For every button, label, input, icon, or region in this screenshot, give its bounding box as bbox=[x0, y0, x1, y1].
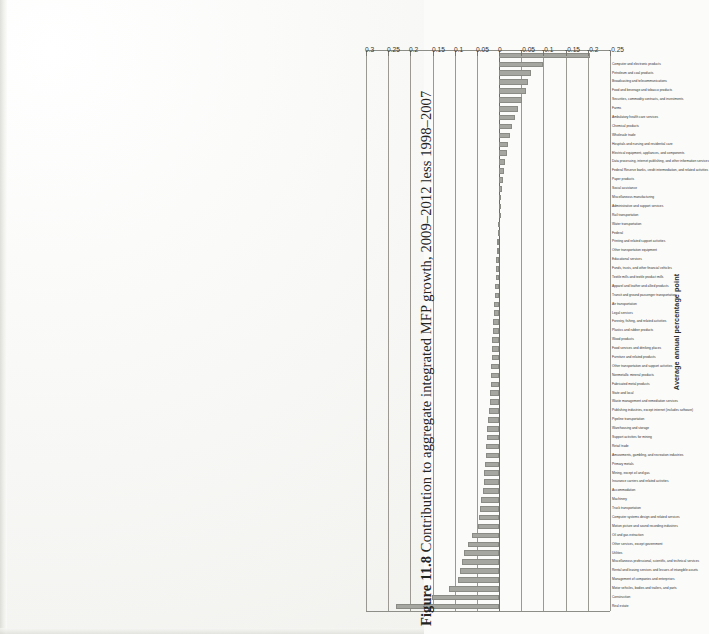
y-axis-tick-label: -0.25 bbox=[609, 6, 616, 46]
category-label: Legal services bbox=[612, 312, 633, 315]
y-axis-tick-label: 0.3 bbox=[365, 6, 372, 46]
bar bbox=[499, 70, 531, 76]
category-label: Nonmetallic mineral products bbox=[612, 374, 654, 377]
bar bbox=[494, 310, 499, 316]
figure-caption-text: Contribution to aggregate integrated MFP… bbox=[418, 91, 434, 552]
category-label: Miscellaneous professional, scientific, … bbox=[612, 560, 699, 563]
bar bbox=[396, 604, 499, 610]
category-label: Motion picture and sound recording indus… bbox=[612, 525, 678, 528]
bar bbox=[485, 462, 499, 468]
category-label: Other services, except government bbox=[612, 543, 662, 546]
category-label: Federal bbox=[612, 232, 623, 235]
category-label: Support activities for mining bbox=[612, 436, 652, 439]
bar bbox=[499, 142, 508, 148]
category-label: Other transportation and support activit… bbox=[612, 365, 672, 368]
y-axis-tick-label: -0.2 bbox=[587, 6, 594, 46]
category-label: Real estate bbox=[612, 605, 628, 608]
bar bbox=[449, 586, 499, 592]
bar bbox=[499, 88, 526, 94]
bar bbox=[499, 124, 512, 130]
category-label: Hospitals and nursing and residential ca… bbox=[612, 143, 673, 146]
bar bbox=[483, 488, 499, 494]
bar bbox=[499, 53, 590, 59]
category-label: Water transportation bbox=[612, 223, 641, 226]
bar bbox=[499, 106, 518, 112]
category-label: Miscellaneous manufacturing bbox=[612, 196, 654, 199]
bar bbox=[492, 355, 500, 361]
bar bbox=[496, 257, 499, 263]
category-label: Insurance carriers and related activitie… bbox=[612, 480, 669, 483]
category-label: Textile mills and textile product mills bbox=[612, 276, 663, 279]
chart-plot-area bbox=[366, 50, 610, 612]
category-label: Oil and gas extraction bbox=[612, 534, 643, 537]
category-label: Plastics and rubber products bbox=[612, 329, 653, 332]
y-axis-tick-label: 0.15 bbox=[432, 6, 439, 46]
bar bbox=[499, 150, 507, 156]
category-label: Primary metals bbox=[612, 463, 634, 466]
category-label: Pipeline transportation bbox=[612, 418, 644, 421]
bar bbox=[490, 390, 499, 396]
y-axis-tick-label: -0.1 bbox=[542, 6, 549, 46]
bar bbox=[499, 195, 501, 201]
bar bbox=[481, 497, 499, 503]
category-label: Rental and leasing services and lessors … bbox=[612, 569, 698, 572]
category-label: Mining, except oil and gas bbox=[612, 472, 650, 475]
category-label: Food and beverage and tobacco products bbox=[612, 89, 672, 92]
bar bbox=[499, 97, 522, 103]
bar bbox=[491, 382, 499, 388]
bar bbox=[497, 248, 499, 254]
page-bottom-edge-shadow bbox=[0, 628, 424, 634]
bar bbox=[484, 470, 499, 476]
category-label: Construction bbox=[612, 596, 630, 599]
bar bbox=[495, 284, 499, 290]
category-label: Motor vehicles, bodies and trailers, and… bbox=[612, 587, 677, 590]
category-label: Utilities bbox=[612, 552, 622, 555]
bar bbox=[497, 239, 499, 245]
bar bbox=[484, 479, 499, 485]
bar bbox=[495, 293, 499, 299]
category-label: Fabricated metal products bbox=[612, 383, 650, 386]
category-label: Securities, commodity contracts, and inv… bbox=[612, 98, 683, 101]
bar bbox=[498, 222, 500, 228]
bar bbox=[496, 275, 500, 281]
category-label: Warehousing and storage bbox=[612, 427, 649, 430]
bar bbox=[499, 62, 542, 68]
bar bbox=[468, 542, 499, 548]
category-label: Social assistance bbox=[612, 187, 637, 190]
bar bbox=[496, 266, 499, 272]
category-label: Federal Reserve banks, credit intermedia… bbox=[612, 169, 708, 172]
category-label: Accommodation bbox=[612, 489, 635, 492]
bar bbox=[499, 115, 515, 121]
category-label: Paper products bbox=[612, 178, 634, 181]
category-label: Chemical products bbox=[612, 125, 639, 128]
category-label: Electrical equipment, appliances, and co… bbox=[612, 152, 684, 155]
y-axis-tick-label: 0.05 bbox=[476, 6, 483, 46]
y-axis-tick-label-text: 0.3 bbox=[365, 46, 405, 53]
category-label: Wholesale trade bbox=[612, 134, 636, 137]
category-label: Printing and related support activities bbox=[612, 240, 665, 243]
category-label: Rail transportation bbox=[612, 214, 638, 217]
chart-plot-wrapper: -0.25-0.2-0.15-0.1-0.0500.050.10.150.20.… bbox=[366, 52, 706, 612]
bar bbox=[499, 133, 510, 139]
category-label: Computer and electronic products bbox=[612, 63, 661, 66]
bar bbox=[493, 328, 499, 334]
page-left-edge-shadow bbox=[0, 0, 7, 634]
bar bbox=[462, 559, 499, 565]
category-label: Retail trade bbox=[612, 445, 629, 448]
category-label: Other transportation equipment bbox=[612, 249, 657, 252]
bar bbox=[478, 524, 499, 530]
bar bbox=[499, 204, 501, 210]
bar bbox=[489, 408, 499, 414]
bar bbox=[499, 186, 502, 192]
category-label: Ambulatory health care services bbox=[612, 116, 658, 119]
category-label: Petroleum and coal products bbox=[612, 72, 653, 75]
category-label: Amusements, gambling, and recreation ind… bbox=[612, 454, 683, 457]
category-label: Funds, trusts, and other financial vehic… bbox=[612, 267, 672, 270]
bar bbox=[491, 373, 499, 379]
bar bbox=[490, 399, 499, 405]
category-label: Machinery bbox=[612, 498, 627, 501]
category-label: Forestry, fishing, and related activitie… bbox=[612, 320, 666, 323]
category-label: State and local bbox=[612, 392, 634, 395]
figure-number: Figure 11.8 bbox=[418, 556, 434, 626]
